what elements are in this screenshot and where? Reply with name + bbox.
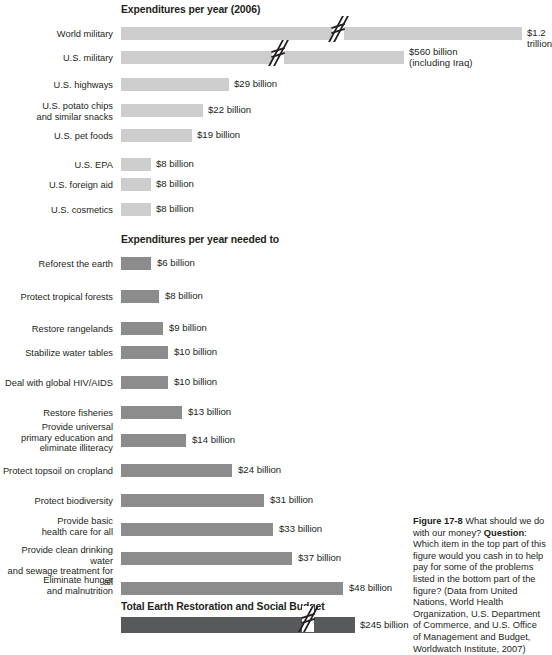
bar-value-label: $37 billion	[298, 552, 341, 563]
bar	[121, 523, 273, 536]
bar	[121, 27, 522, 40]
bar	[121, 129, 192, 142]
bar-row-label: Restore rangelands	[0, 324, 113, 335]
bar	[121, 464, 232, 477]
bar-row-label: Eliminate hunger and malnutrition	[0, 575, 113, 596]
bar	[121, 406, 182, 419]
bar	[121, 434, 186, 447]
bar-value-label: $245 billion	[360, 619, 409, 630]
bar	[121, 158, 151, 171]
bar-row-label: U.S. military	[0, 53, 113, 64]
bar-row-label: Restore fisheries	[0, 408, 113, 419]
bar-row-label: Protect tropical forests	[0, 292, 113, 303]
figure-caption: Figure 17-8 What should we do with our m…	[413, 516, 547, 655]
bar-row-label: U.S. foreign aid	[0, 180, 113, 191]
bar-row-label: U.S. highways	[0, 80, 113, 91]
bar	[121, 494, 264, 507]
bar-row-label: U.S. potato chips and similar snacks	[0, 101, 113, 122]
bar	[121, 322, 163, 335]
section-heading-expenditures: Expenditures per year (2006)	[121, 4, 260, 15]
bar-value-label: $14 billion	[192, 434, 235, 445]
bar	[121, 104, 203, 117]
bar	[121, 257, 151, 270]
section-heading-needed: Expenditures per year needed to	[121, 234, 279, 245]
bar-row-label: Provide universal primary education and …	[0, 422, 113, 454]
bar-value-label: $29 billion	[234, 78, 277, 89]
bar-value-label: $19 billion	[197, 129, 240, 140]
bar-value-label: $13 billion	[188, 406, 231, 417]
bar	[121, 346, 168, 359]
section-heading-total: Total Earth Restoration and Social Budge…	[121, 601, 325, 612]
bar	[121, 78, 229, 91]
bar	[121, 203, 151, 216]
bar-row-label: U.S. cosmetics	[0, 205, 113, 216]
bar-row-label: Reforest the earth	[0, 259, 113, 270]
bar	[121, 290, 159, 303]
bar-row-label: Protect topsoil on cropland	[0, 466, 113, 477]
bar-row-label: Deal with global HIV/AIDS	[0, 378, 113, 389]
bar-value-label: $560 billion (including Iraq)	[409, 46, 472, 68]
bar-row-label: Protect biodiversity	[0, 496, 113, 507]
bar-value-label: $8 billion	[165, 290, 203, 301]
bar-row-label: U.S. EPA	[0, 160, 113, 171]
bar-value-label: $10 billion	[174, 346, 217, 357]
bar-value-label: $1.2 trillion	[527, 27, 552, 49]
bar-value-label: $8 billion	[156, 178, 194, 189]
bar	[121, 582, 343, 595]
bar-value-label: $31 billion	[270, 494, 313, 505]
bar	[121, 617, 355, 633]
bar-row-label: Provide basic health care for all	[0, 516, 113, 537]
bar	[121, 376, 168, 389]
bar-value-label: $22 billion	[208, 104, 251, 115]
bar-value-label: $8 billion	[156, 203, 194, 214]
bar	[121, 178, 151, 191]
bar-row-label: World military	[0, 29, 113, 40]
bar-row-label: U.S. pet foods	[0, 131, 113, 142]
bar	[121, 552, 292, 565]
bar-value-label: $10 billion	[174, 376, 217, 387]
bar-value-label: $48 billion	[349, 582, 392, 593]
bar	[121, 51, 404, 64]
figure-number: Figure 17-8	[413, 516, 463, 526]
bar-value-label: $33 billion	[279, 523, 322, 534]
caption-rest: : Which item in the top part of this fig…	[413, 528, 546, 654]
bar-value-label: $6 billion	[157, 257, 195, 268]
bar-value-label: $24 billion	[238, 464, 281, 475]
question-label: Question	[484, 528, 524, 538]
bar-value-label: $8 billion	[156, 158, 194, 169]
bar-row-label: Stabilize water tables	[0, 348, 113, 359]
bar-value-label: $9 billion	[169, 322, 207, 333]
